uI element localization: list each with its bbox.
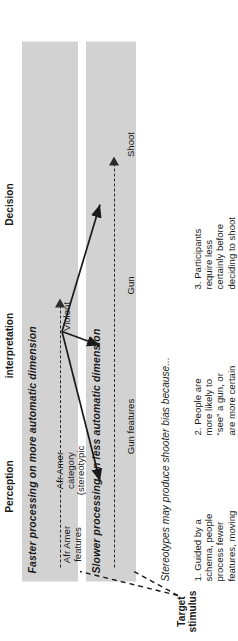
note-item-1: 1. Guided by a schema, people process fe… <box>192 449 238 581</box>
note-item-2: 2. People are more likely to “see” a gun… <box>192 303 238 435</box>
target-stimulus-label: Target stimulus <box>176 583 198 639</box>
rotated-figure-stage: Faster processing on more automatic dime… <box>0 0 238 641</box>
shooter-bias-diagram: Faster processing on more automatic dime… <box>0 0 238 641</box>
leader-to-controlled-band <box>134 571 178 595</box>
figure-caption: Stereotypes may produce shooter bias bec… <box>160 357 171 581</box>
note-item-3: 3. Participants require less certainly b… <box>192 149 237 289</box>
